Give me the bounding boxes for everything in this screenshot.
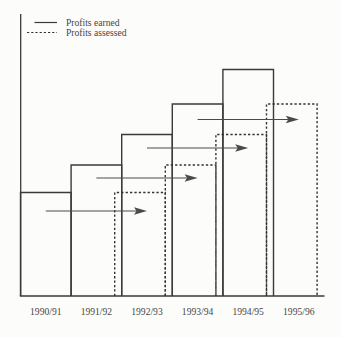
bar-profits-earned-1990/91 [21, 193, 72, 297]
lag-arrow-1990 [46, 207, 147, 214]
lag-arrow-1991 [96, 174, 197, 181]
lag-arrow-1993 [198, 116, 299, 123]
legend-label-profits-assessed: Profits assessed [66, 27, 127, 38]
chart-canvas: Profits earned Profits assessed 1990/911… [0, 0, 342, 337]
x-axis-labels-layer: 1990/911991/921992/931993/941994/951995/… [30, 306, 315, 317]
x-axis-label-1991: 1991/92 [81, 306, 113, 317]
x-axis-label-1990: 1990/91 [30, 306, 62, 317]
chart-legend: Profits earned Profits assessed [27, 17, 127, 38]
x-axis-label-1992: 1992/93 [131, 306, 163, 317]
x-axis-label-1995: 1995/96 [283, 306, 315, 317]
x-axis-label-1994: 1994/95 [232, 306, 264, 317]
lag-arrow-1992 [147, 144, 248, 151]
bars-layer [21, 70, 318, 297]
profits-lag-chart-figure: Profits earned Profits assessed 1990/911… [0, 0, 342, 337]
x-axis-label-1993: 1993/94 [182, 306, 214, 317]
